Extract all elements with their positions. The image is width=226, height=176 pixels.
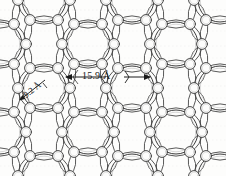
lattice-drawing <box>0 0 226 176</box>
framework-lattice-figure: 15.9 Å 9.2 Å <box>0 0 226 176</box>
